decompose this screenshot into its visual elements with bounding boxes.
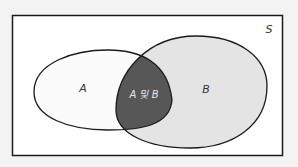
venn-diagram (0, 0, 298, 167)
universe-label: S (266, 23, 273, 36)
set-b-label: B (202, 83, 210, 96)
intersection-label: A 및 B (129, 86, 158, 101)
set-a-label: A (79, 82, 87, 95)
